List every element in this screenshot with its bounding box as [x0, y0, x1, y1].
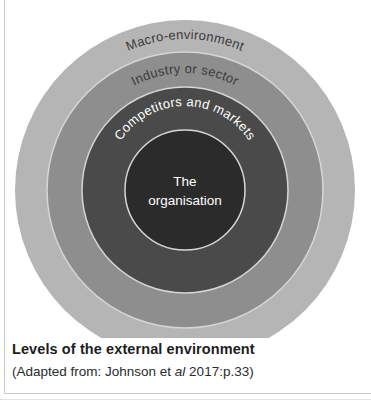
caption-block: Levels of the external environment (Adap…	[12, 340, 362, 381]
caption-source-suffix: 2017:p.33)	[185, 364, 253, 379]
caption-title: Levels of the external environment	[12, 340, 362, 358]
concentric-rings-diagram: Macro-environment Industry or sector Com…	[0, 0, 371, 338]
caption-source-prefix: (Adapted from: Johnson et	[12, 364, 175, 379]
ring-the-organisation	[125, 130, 245, 250]
core-label-line1: The	[173, 174, 196, 189]
caption-source-italic: al	[175, 364, 186, 379]
figure-container: Macro-environment Industry or sector Com…	[0, 0, 371, 403]
frame-border-bottom	[4, 393, 371, 394]
caption-source: (Adapted from: Johnson et al 2017:p.33)	[12, 364, 362, 381]
frame-border-bottom-outer	[0, 399, 371, 400]
core-label-line2: organisation	[148, 193, 222, 208]
rings-svg: Macro-environment Industry or sector Com…	[0, 0, 371, 338]
